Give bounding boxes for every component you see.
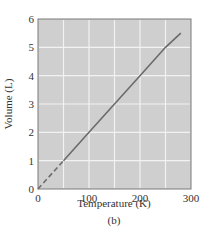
y-tick-label: 5 (29, 41, 35, 53)
y-axis-label: Volume (L) (2, 78, 15, 129)
y-tick-label: 2 (29, 126, 35, 138)
x-tick-label: 0 (35, 192, 41, 204)
y-tick-label: 0 (29, 183, 35, 195)
y-tick-label: 3 (29, 98, 35, 110)
x-tick-label: 300 (183, 192, 200, 204)
y-tick-label: 1 (29, 155, 35, 167)
y-tick-label: 6 (29, 13, 35, 25)
x-axis-label: Temperature (K) (77, 197, 151, 210)
y-tick-label: 4 (29, 70, 35, 82)
y-axis-ticks: 0123456 (29, 13, 35, 195)
figure-caption: (b) (108, 214, 121, 227)
volume-temperature-chart: 0100200300 0123456 Temperature (K) Volum… (0, 0, 203, 237)
